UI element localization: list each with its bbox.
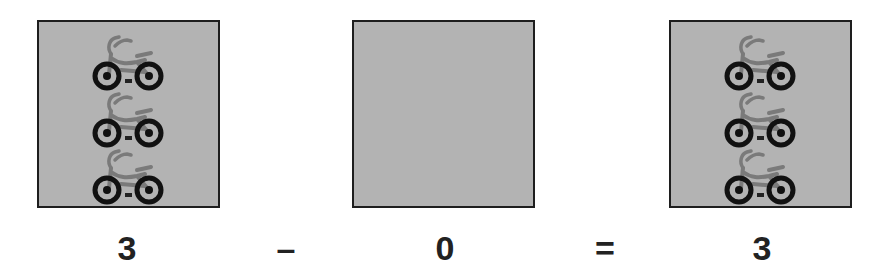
bicycle-icon bbox=[91, 148, 167, 205]
result-label: 3 bbox=[753, 228, 772, 268]
operand-2-label: 0 bbox=[436, 228, 455, 268]
bicycle-icon bbox=[91, 34, 167, 91]
operand-box-2 bbox=[352, 20, 535, 208]
equals-sign: = bbox=[595, 228, 615, 268]
bicycle-icon bbox=[723, 148, 799, 205]
bicycle-icon bbox=[723, 34, 799, 91]
bicycle-stack bbox=[671, 34, 850, 205]
result-box bbox=[669, 20, 852, 208]
bicycle-icon bbox=[91, 91, 167, 148]
minus-sign: – bbox=[277, 228, 296, 268]
bicycle-icon bbox=[723, 91, 799, 148]
operand-1-label: 3 bbox=[118, 228, 137, 268]
bicycle-stack bbox=[39, 34, 218, 205]
operand-box-1 bbox=[37, 20, 220, 208]
